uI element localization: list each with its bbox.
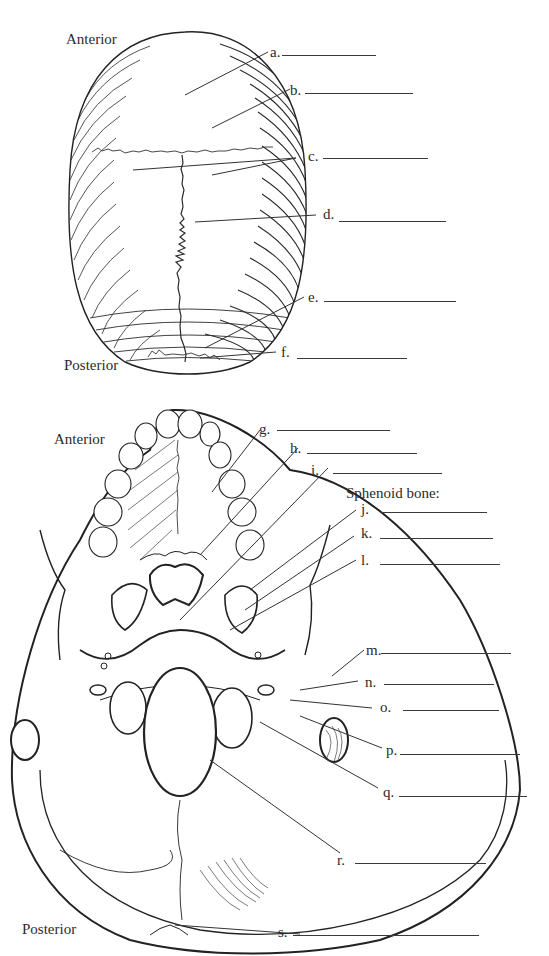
- label-i: i.: [311, 462, 319, 478]
- answer-blank-i[interactable]: [333, 473, 442, 474]
- label-c: c.: [308, 148, 318, 164]
- answer-blank-r[interactable]: [355, 863, 486, 864]
- inferior-skull-outline: [12, 410, 520, 954]
- answer-blank-q[interactable]: [399, 796, 527, 797]
- answer-blank-l[interactable]: [380, 564, 500, 565]
- answer-blank-j[interactable]: [380, 512, 487, 513]
- answer-blank-n[interactable]: [384, 684, 494, 685]
- sagittal-suture: [176, 155, 186, 362]
- superior-anterior-label: Anterior: [66, 31, 117, 47]
- inferior-anterior-label: Anterior: [54, 431, 105, 447]
- answer-blank-o[interactable]: [403, 710, 499, 711]
- answer-blank-k[interactable]: [380, 538, 493, 539]
- label-f: f.: [281, 344, 290, 360]
- answer-blank-g[interactable]: [277, 430, 390, 431]
- label-a: a.: [270, 44, 280, 60]
- label-r: r.: [337, 852, 345, 868]
- answer-blank-e[interactable]: [324, 301, 456, 302]
- answer-blank-b[interactable]: [305, 93, 413, 94]
- coronal-suture: [92, 147, 273, 153]
- label-s: s.: [278, 924, 288, 940]
- label-q: q.: [383, 784, 394, 800]
- label-e: e.: [308, 289, 318, 305]
- label-l: l.: [361, 552, 369, 568]
- inferior-posterior-label: Posterior: [22, 921, 76, 937]
- label-p: p.: [386, 742, 397, 758]
- label-h: h.: [290, 440, 301, 456]
- label-b: b.: [290, 82, 301, 98]
- answer-blank-a[interactable]: [282, 55, 376, 56]
- inferior-skull: [11, 410, 520, 954]
- answer-blank-f[interactable]: [297, 358, 407, 359]
- leader-lines: [133, 52, 382, 934]
- superior-posterior-label: Posterior: [64, 357, 118, 373]
- label-j: j.: [361, 501, 369, 517]
- answer-blank-d[interactable]: [339, 221, 446, 222]
- label-o: o.: [380, 699, 391, 715]
- label-k: k.: [361, 525, 372, 541]
- skull-illustrations: [0, 0, 549, 956]
- answer-blank-m[interactable]: [381, 653, 511, 654]
- foramen-magnum: [144, 668, 216, 796]
- label-n: n.: [365, 674, 376, 690]
- label-g: g.: [259, 421, 270, 437]
- sphenoid-bone-heading: Sphenoid bone:: [346, 485, 440, 502]
- answer-blank-h[interactable]: [307, 453, 417, 454]
- dental-arch: [89, 410, 264, 560]
- answer-blank-p[interactable]: [400, 754, 520, 755]
- label-d: d.: [323, 206, 334, 222]
- superior-skull-outline: [69, 32, 306, 374]
- answer-blank-s[interactable]: [293, 935, 479, 936]
- answer-blank-c[interactable]: [323, 158, 428, 159]
- label-m: m.: [366, 642, 381, 658]
